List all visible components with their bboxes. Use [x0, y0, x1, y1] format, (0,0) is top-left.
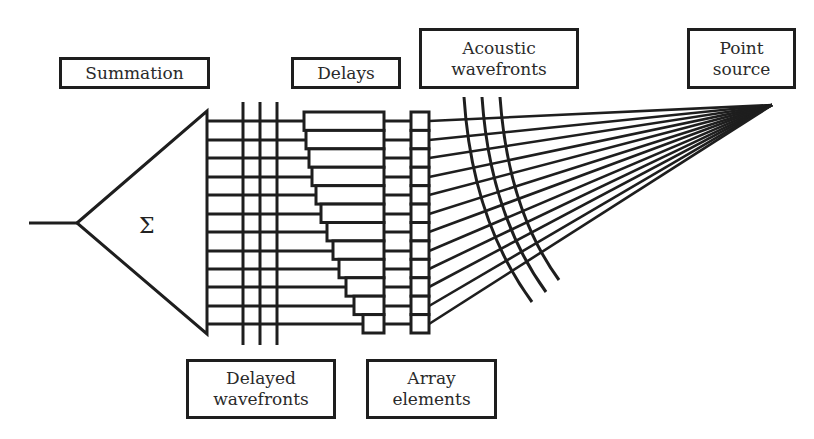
array-element	[411, 278, 429, 296]
delayed-wavefronts	[243, 102, 277, 345]
source-ray	[429, 105, 772, 269]
source-ray	[429, 105, 772, 232]
array-element	[411, 223, 429, 241]
summation-label: Summation	[59, 57, 210, 89]
array-elements	[411, 112, 429, 333]
array-element	[411, 149, 429, 167]
source-ray	[429, 105, 772, 177]
delay-block	[304, 112, 384, 130]
point-source-label: Point source	[687, 28, 796, 89]
delay-block	[312, 167, 384, 185]
delay-block	[363, 315, 384, 333]
delay-block	[309, 149, 384, 167]
array-element	[411, 130, 429, 148]
array-element	[411, 112, 429, 130]
delay-block	[339, 259, 384, 277]
delays-label: Delays	[291, 57, 401, 89]
array-elements-label: Array elements	[366, 359, 497, 419]
sigma-symbol: Σ	[139, 213, 155, 238]
delay-blocks	[304, 112, 384, 333]
array-element	[411, 241, 429, 259]
source-rays	[429, 105, 772, 324]
array-element	[411, 315, 429, 333]
delay-block	[346, 278, 384, 296]
delay-block	[321, 204, 384, 222]
array-element	[411, 204, 429, 222]
source-ray	[429, 105, 772, 251]
array-element	[411, 167, 429, 185]
array-element	[411, 186, 429, 204]
delayed-wavefronts-label: Delayed wavefronts	[186, 359, 336, 419]
delay-block	[327, 223, 384, 241]
array-element	[411, 296, 429, 314]
acoustic-wavefronts-label: Acoustic wavefronts	[419, 28, 579, 89]
delay-block	[316, 186, 384, 204]
source-ray	[429, 105, 772, 324]
delay-block	[333, 241, 384, 259]
delay-block	[354, 296, 384, 314]
array-element	[411, 259, 429, 277]
delay-block	[306, 130, 384, 148]
